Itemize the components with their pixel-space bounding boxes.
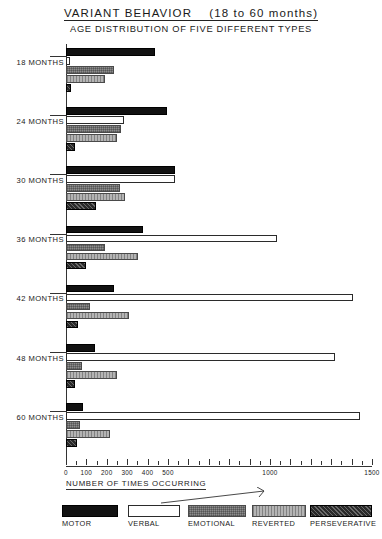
age-label-42: 42 MONTHS (0, 294, 64, 303)
plot-area (66, 44, 372, 462)
bar-reverted (66, 75, 105, 83)
legend-swatch-motor (62, 505, 118, 517)
bar-reverted (66, 253, 138, 261)
legend-swatch-emotional (188, 505, 246, 517)
bar-verbal (66, 412, 360, 420)
legend: MOTORVERBALEMOTIONALREVERTEDPERSEVERATIV… (0, 505, 382, 537)
bar-perseverative (66, 143, 75, 151)
x-tick (341, 461, 342, 465)
bar-reverted (66, 193, 125, 201)
legend-swatch-perseverative (310, 505, 372, 517)
x-tick-label: 300 (121, 469, 133, 476)
x-tick-label: 0 (64, 469, 68, 476)
legend-item-emotional: EMOTIONAL (188, 505, 246, 528)
x-tick (117, 461, 118, 465)
legend-label-reverted: REVERTED (252, 519, 306, 528)
bar-reverted (66, 312, 129, 320)
x-axis-line (66, 466, 372, 467)
bar-reverted (66, 430, 110, 438)
bar-motor (66, 166, 175, 174)
bar-motor (66, 285, 114, 293)
legend-item-reverted: REVERTED (252, 505, 306, 528)
bar-reverted (66, 371, 117, 379)
x-tick (229, 459, 230, 465)
x-tick-label: 100 (81, 469, 93, 476)
age-label-18: 18 MONTHS (0, 58, 64, 67)
x-tick (148, 459, 149, 465)
x-tick (66, 459, 67, 465)
bar-verbal (66, 175, 175, 183)
x-tick (270, 459, 271, 465)
x-tick (311, 459, 312, 465)
title-main-right: (18 to 60 months) (209, 7, 318, 19)
legend-label-motor: MOTOR (62, 519, 118, 528)
title-main-left: VARIANT BEHAVIOR (64, 7, 192, 19)
bar-verbal (66, 116, 124, 124)
legend-label-verbal: VERBAL (128, 519, 180, 528)
x-tick (76, 461, 77, 465)
x-tick (372, 459, 373, 465)
x-tick (178, 461, 179, 465)
bar-emotional (66, 303, 90, 311)
age-label-24: 24 MONTHS (0, 117, 64, 126)
x-tick (127, 459, 128, 465)
x-tick (260, 461, 261, 465)
age-label-48: 48 MONTHS (0, 354, 64, 363)
x-tick-label: 500 (162, 469, 174, 476)
bar-motor (66, 403, 83, 411)
bar-emotional (66, 125, 121, 133)
axis-pointer-icon (160, 487, 280, 505)
x-tick (219, 461, 220, 465)
bar-emotional (66, 244, 105, 252)
bar-motor (66, 344, 95, 352)
x-tick-label: 400 (142, 469, 154, 476)
legend-swatch-verbal (128, 505, 180, 517)
x-tick (250, 459, 251, 465)
x-tick-label: 1000 (262, 469, 277, 476)
age-label-30: 30 MONTHS (0, 176, 64, 185)
bar-perseverative (66, 262, 86, 270)
bar-verbal (66, 353, 335, 361)
bar-motor (66, 107, 167, 115)
bar-perseverative (66, 439, 77, 447)
legend-label-perseverative: PERSEVERATIVE (310, 519, 376, 528)
legend-label-emotional: EMOTIONAL (188, 519, 246, 528)
x-tick (290, 459, 291, 465)
page-title: VARIANT BEHAVIOR (18 to 60 months) (0, 7, 382, 19)
bar-perseverative (66, 84, 71, 92)
x-tick (188, 459, 189, 465)
x-tick (239, 461, 240, 465)
bar-emotional (66, 362, 82, 370)
x-tick (86, 459, 87, 465)
x-tick (158, 461, 159, 465)
age-label-60: 60 MONTHS (0, 413, 64, 422)
legend-item-verbal: VERBAL (128, 505, 180, 528)
bar-verbal (66, 57, 70, 65)
x-tick-label: 200 (101, 469, 113, 476)
x-tick (280, 461, 281, 465)
chart-root: VARIANT BEHAVIOR (18 to 60 months) AGE D… (0, 0, 382, 539)
legend-swatch-reverted (252, 505, 306, 517)
bar-emotional (66, 421, 80, 429)
x-tick (97, 461, 98, 465)
x-tick (199, 461, 200, 465)
x-tick (301, 461, 302, 465)
bar-motor (66, 226, 143, 234)
bar-emotional (66, 66, 114, 74)
bar-perseverative (66, 380, 75, 388)
bar-perseverative (66, 321, 78, 329)
x-tick (209, 459, 210, 465)
legend-item-motor: MOTOR (62, 505, 118, 528)
age-label-36: 36 MONTHS (0, 235, 64, 244)
x-tick (352, 459, 353, 465)
x-tick (321, 461, 322, 465)
x-tick (168, 459, 169, 465)
legend-item-perseverative: PERSEVERATIVE (310, 505, 376, 528)
x-tick (137, 461, 138, 465)
bar-reverted (66, 134, 117, 142)
bar-verbal (66, 294, 353, 302)
bar-emotional (66, 184, 120, 192)
x-tick (107, 459, 108, 465)
bar-motor (66, 48, 155, 56)
bar-perseverative (66, 202, 96, 210)
